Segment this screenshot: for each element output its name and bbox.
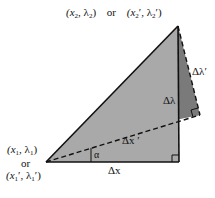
label-part: ′) <box>156 6 162 18</box>
label-part: ) <box>33 143 37 155</box>
label-part: , λ <box>78 6 89 18</box>
top-point-label: (x2, λ2) or (x2′, λ2′) <box>66 7 162 20</box>
label-part: , λ <box>19 143 30 155</box>
label-part: (x <box>66 6 75 18</box>
bottom-point-or: or <box>21 158 30 169</box>
label-part: ′, λ <box>139 6 152 18</box>
delta-x-label: Δx <box>108 165 121 176</box>
bottom-point-label-line3: (x1′, λ1′) <box>6 170 41 183</box>
or-text: or <box>107 6 116 18</box>
bottom-point-label-line1: (x1, λ1) <box>7 144 37 157</box>
delta-lambda-edge <box>178 26 179 162</box>
label-part: ) <box>92 6 96 18</box>
alpha-label: α <box>94 150 99 160</box>
label-part: ′, λ <box>18 169 31 181</box>
delta-lambda-label: Δλ <box>163 95 175 106</box>
delta-x-prime-label: Δx ′ <box>122 135 140 146</box>
delta-lambda-prime-label: Δλ′ <box>192 66 207 77</box>
label-part: (x <box>127 6 136 18</box>
label-part: (x <box>7 143 16 155</box>
label-part: ′) <box>35 169 41 181</box>
label-part: (x <box>6 169 15 181</box>
